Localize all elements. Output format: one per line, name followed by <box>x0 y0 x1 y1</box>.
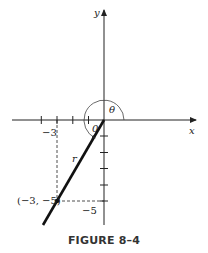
x-tick-label-minus-3: −3 <box>42 127 57 138</box>
theta-label: θ <box>109 104 115 115</box>
radius-label: r <box>72 153 78 164</box>
y-tick-label-minus-5: −5 <box>82 205 97 216</box>
origin-label: 0 <box>92 123 99 134</box>
polar-angle-diagram: y x θ 0 r −3 −5 (−3, −5) <box>0 0 208 253</box>
point-label: (−3, −5) <box>17 195 61 206</box>
y-axis-label: y <box>93 7 100 18</box>
figure-caption: FIGURE 8–4 <box>0 234 208 247</box>
x-axis-label: x <box>189 125 195 136</box>
